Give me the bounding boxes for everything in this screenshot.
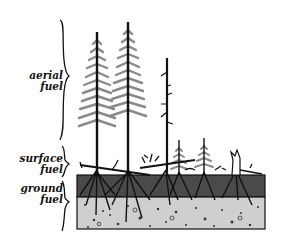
dead-snag [161,58,173,172]
brace-surface [62,146,69,177]
tall-conifer-1 [79,32,115,176]
small-conifer-2 [195,138,213,175]
small-conifer-1 [171,140,187,175]
tall-conifer-2 [110,22,146,176]
broken-stump [231,150,240,175]
brace-aerial [60,20,69,140]
brace-ground [62,181,69,231]
fuel-layers-illustration [0,0,283,248]
